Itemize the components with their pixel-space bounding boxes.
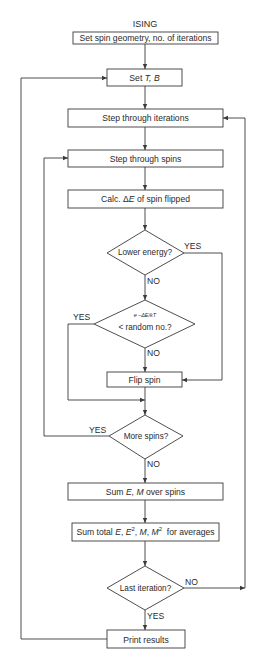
node-sum-total: Sum total E, E2, M, M2 for averages xyxy=(76,528,214,537)
node-sum-em-prefix: Sum xyxy=(106,486,126,496)
node-flip-spin: Flip spin xyxy=(129,375,161,384)
node-sum-em-suffix: over spins xyxy=(144,486,186,496)
node-sum-em: Sum E, M over spins xyxy=(106,487,185,496)
node-last-iteration: Last iteration? xyxy=(120,585,171,593)
flowchart-canvas xyxy=(0,0,260,671)
node-calc-de-prefix: Calc. Δ xyxy=(101,194,129,204)
node-more-spins: More spins? xyxy=(124,433,169,441)
sum-total-e2-exp: 2 xyxy=(131,526,134,532)
node-step-iterations: Step through iterations xyxy=(102,114,188,123)
node-boltzmann-bottom: < random no.? xyxy=(118,324,171,332)
node-step-spins: Step through spins xyxy=(110,154,182,163)
flowchart-title: ISING xyxy=(133,20,158,29)
sum-total-m: M xyxy=(140,527,147,537)
sum-total-suffix: for averages xyxy=(162,527,215,537)
node-lower-energy: Lower energy? xyxy=(118,249,172,257)
node-print-results: Print results xyxy=(123,635,168,644)
edge-label-more-spins-no: NO xyxy=(147,460,160,469)
node-sum-em-vars: E, M xyxy=(126,486,144,496)
edge-label-lower-energy-yes: YES xyxy=(184,242,201,251)
node-set-tb-vars: T, B xyxy=(145,73,160,83)
node-calc-de: Calc. ΔE of spin flipped xyxy=(101,195,190,204)
sum-total-prefix: Sum total xyxy=(76,527,115,537)
node-set-geometry: Set spin geometry, no. of iterations xyxy=(79,34,211,43)
edge-label-boltzmann-no: NO xyxy=(147,349,160,358)
edge-label-more-spins-yes: YES xyxy=(89,426,106,435)
edge-label-last-iteration-no: NO xyxy=(185,578,198,587)
edge-label-boltzmann-yes: YES xyxy=(73,313,90,322)
node-set-tb-prefix: Set xyxy=(129,73,144,83)
node-boltzmann-top: e −ΔE/kT xyxy=(134,313,156,319)
sum-total-e: E xyxy=(115,527,121,537)
edge-label-lower-energy-no: NO xyxy=(147,277,160,286)
edge-label-last-iteration-yes: YES xyxy=(147,612,164,621)
node-set-tb: Set T, B xyxy=(129,74,159,83)
node-calc-de-suffix: of spin flipped xyxy=(135,194,190,204)
